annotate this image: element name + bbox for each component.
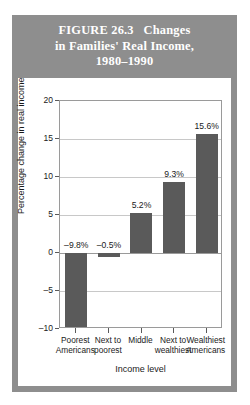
bar-slot: –9.8%: [60, 101, 93, 327]
y-axis-tick-label: 20: [23, 95, 53, 105]
bar-slot: 9.3%: [158, 101, 191, 327]
bar-slot: 15.6%: [190, 101, 223, 327]
bar-value-label: –9.8%: [64, 240, 88, 250]
bar[interactable]: [196, 134, 218, 253]
figure-title: FIGURE 26.3 Changes in Families' Real In…: [12, 23, 237, 70]
bar[interactable]: [98, 253, 120, 257]
x-axis-tick-mark: [173, 328, 174, 333]
x-axis-category-label: WealthiestAmericans: [181, 335, 230, 355]
figure-title-line-2: in Families' Real Income,: [12, 39, 237, 55]
y-axis-tick-label: –5: [23, 285, 53, 295]
bar-value-label: 15.6%: [195, 121, 219, 131]
bar-slot: –0.5%: [93, 101, 126, 327]
y-axis-tick-label: 5: [23, 209, 53, 219]
bar-value-label: –0.5%: [97, 240, 121, 250]
y-axis-tick-label: –10: [23, 323, 53, 333]
y-axis-tick-mark: [55, 328, 59, 329]
figure-title-line-3: 1980–1990: [12, 54, 237, 70]
bar[interactable]: [163, 182, 185, 253]
y-axis-tick-label: 10: [23, 171, 53, 181]
x-axis-category-line: poorest: [84, 345, 133, 355]
bar-value-label: 9.3%: [164, 169, 184, 179]
bar[interactable]: [130, 213, 152, 253]
x-axis-category-line: Wealthiest: [181, 335, 230, 345]
figure-card: FIGURE 26.3 Changes in Families' Real In…: [12, 15, 237, 392]
bar-value-label: 5.2%: [132, 200, 152, 210]
x-axis-tick-mark: [206, 328, 207, 333]
x-axis-title: Income level: [59, 364, 222, 374]
plot-frame: –9.8%–0.5%5.2%9.3%15.6%: [59, 100, 222, 328]
x-axis-tick-mark: [75, 328, 76, 333]
y-axis-tick-label: 15: [23, 133, 53, 143]
x-axis-category-line: Americans: [181, 345, 230, 355]
chart-area: Percentage change in real income 2015105…: [18, 78, 231, 386]
bar[interactable]: [65, 253, 87, 327]
x-axis-tick-mark: [141, 328, 142, 333]
x-axis-tick-mark: [108, 328, 109, 333]
y-axis-tick-label: 0: [23, 247, 53, 257]
figure-title-line-1: FIGURE 26.3 Changes: [12, 23, 237, 39]
bar-slot: 5.2%: [125, 101, 158, 327]
